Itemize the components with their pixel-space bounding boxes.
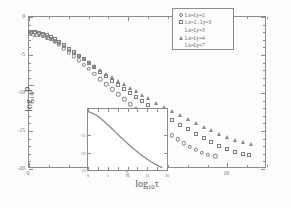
- axis-tick: [263, 78, 265, 79]
- inset-y-tick-label: -25: [80, 150, 86, 155]
- axis-tick: [263, 25, 265, 26]
- y-axis-label-prefix: log: [23, 99, 34, 112]
- axis-tick: [69, 165, 70, 167]
- axis-tick: [261, 131, 265, 132]
- data-point-marker: [72, 50, 76, 54]
- data-point-marker: [41, 32, 45, 36]
- data-point-marker: [45, 36, 49, 40]
- data-point-marker: [176, 137, 180, 141]
- data-point-marker: [154, 101, 158, 105]
- data-point-marker: [49, 35, 53, 39]
- data-point-marker: [87, 60, 91, 64]
- data-point-marker: [82, 57, 86, 61]
- axis-tick: [263, 116, 265, 117]
- axis-tick: [263, 32, 265, 33]
- data-point-marker: [33, 31, 37, 35]
- data-point-marker: [37, 32, 41, 36]
- data-point-marker: [122, 82, 126, 86]
- axis-tick: [29, 161, 31, 162]
- data-point-marker: [77, 54, 81, 58]
- data-point-marker: [194, 132, 198, 136]
- axis-tick: [263, 63, 265, 64]
- legend-box: Lx=Ly=2Lx=2 , Ly=3Lx=Ly=3Lx=Ly=4Lx=Ly=7: [172, 8, 234, 50]
- data-point-marker: [41, 34, 45, 38]
- inset-axis-tick: [88, 170, 91, 171]
- axis-tick: [267, 165, 268, 167]
- data-point-marker: [33, 30, 37, 34]
- axis-tick: [263, 101, 265, 102]
- data-point-marker: [98, 68, 102, 72]
- data-point-marker: [77, 54, 81, 58]
- legend-marker: [176, 13, 185, 17]
- data-point-marker: [116, 92, 120, 96]
- data-point-marker: [110, 79, 114, 83]
- data-point-marker: [86, 67, 90, 71]
- data-point-marker: [134, 95, 138, 99]
- axis-tick: [108, 17, 109, 19]
- axis-tick: [29, 17, 33, 18]
- data-point-marker: [187, 144, 191, 148]
- data-point-marker: [249, 142, 253, 146]
- figure-panel: 05101520-15-25-35 05100-5-10-15-20 Lx=Ly…: [0, 0, 291, 208]
- data-point-marker: [247, 153, 251, 157]
- data-point-marker: [202, 136, 206, 140]
- legend-entry: Lx=2 , Ly=3: [176, 19, 231, 27]
- data-point-marker: [72, 51, 76, 55]
- inset-axis-tick: [167, 167, 168, 170]
- data-point-marker: [53, 39, 57, 43]
- data-point-marker: [57, 40, 61, 44]
- data-point-marker: [128, 91, 132, 95]
- axis-tick: [263, 47, 265, 48]
- data-point-marker: [49, 37, 53, 41]
- legend-marker: [176, 36, 185, 40]
- data-point-marker: [67, 47, 71, 51]
- data-point-marker: [233, 150, 237, 154]
- x-tick-label: 0: [27, 170, 30, 176]
- data-point-marker: [209, 140, 213, 144]
- data-point-marker: [62, 43, 66, 47]
- inset-curve: [88, 109, 167, 170]
- data-point-marker: [134, 89, 138, 93]
- data-point-marker: [170, 118, 174, 122]
- data-point-marker: [92, 64, 96, 68]
- data-point-marker: [76, 58, 80, 62]
- legend-entry: Lx=Ly=4: [176, 34, 231, 42]
- data-point-marker: [53, 37, 57, 41]
- data-point-marker: [202, 125, 206, 129]
- data-point-marker: [87, 61, 91, 65]
- data-point-marker: [67, 48, 71, 52]
- legend-label: Lx=Ly=2: [185, 12, 205, 18]
- data-point-marker: [33, 33, 37, 37]
- axis-tick: [263, 146, 265, 147]
- data-point-marker: [71, 54, 75, 58]
- data-point-marker: [104, 74, 108, 78]
- square-marker-icon: [179, 20, 183, 24]
- y-axis-label-variable: P: [23, 87, 34, 93]
- data-point-marker: [57, 42, 61, 46]
- y-axis-label: log10Pτ: [23, 53, 35, 143]
- data-point-marker: [92, 72, 96, 76]
- axis-tick: [188, 165, 189, 167]
- axis-tick: [49, 165, 50, 167]
- x-tick-label: 5: [126, 170, 129, 176]
- data-point-marker: [98, 77, 102, 81]
- axis-tick: [263, 123, 265, 124]
- data-point-marker: [37, 33, 41, 37]
- data-point-marker: [104, 72, 108, 76]
- axis-tick: [263, 40, 265, 41]
- legend-label: Lx=Ly=3: [185, 27, 205, 33]
- axis-tick: [263, 139, 265, 140]
- data-point-marker: [82, 57, 86, 61]
- data-point-marker: [225, 135, 229, 139]
- data-point-marker: [57, 41, 61, 45]
- data-point-marker: [181, 141, 185, 145]
- data-point-marker: [66, 50, 70, 54]
- data-point-marker: [49, 37, 53, 41]
- inset-plot: 05101520-15-25-35: [87, 108, 168, 171]
- x-axis-label-prefix: log: [135, 178, 148, 189]
- data-point-marker: [186, 117, 190, 121]
- axis-tick: [263, 70, 265, 71]
- axis-tick: [29, 32, 31, 33]
- axis-tick: [261, 17, 265, 18]
- data-point-marker: [128, 86, 132, 90]
